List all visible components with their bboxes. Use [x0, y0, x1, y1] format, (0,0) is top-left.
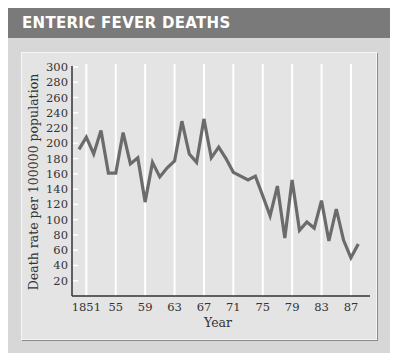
y-tick-label: 140: [46, 182, 68, 196]
x-tick-label: 67: [197, 300, 212, 314]
x-tick-label: 55: [108, 300, 123, 314]
y-tick-label: 160: [46, 167, 68, 181]
y-tick-label: 180: [46, 152, 68, 166]
line-chart: 2040608010012014016018020022024026028030…: [0, 0, 395, 359]
x-tick-label: 63: [167, 300, 182, 314]
x-tick-label: 75: [255, 300, 270, 314]
y-tick-label: 120: [46, 197, 68, 211]
y-tick-label: 280: [46, 75, 68, 89]
x-axis-title: Year: [203, 315, 232, 330]
x-tick-label: 1851: [72, 300, 101, 314]
y-tick-label: 220: [46, 121, 68, 135]
y-tick-label: 20: [53, 274, 68, 288]
x-axis: 1851555963677175798387: [72, 296, 370, 314]
x-tick-label: 87: [344, 300, 359, 314]
x-tick-label: 59: [138, 300, 153, 314]
y-tick-label: 100: [46, 213, 68, 227]
y-tick-label: 40: [53, 258, 68, 272]
y-tick-label: 60: [53, 243, 68, 257]
vertical-gridlines: [86, 64, 351, 296]
y-tick-label: 300: [46, 60, 68, 74]
y-axis-title: Death rate per 100000 population: [26, 74, 41, 290]
y-axis: 2040608010012014016018020022024026028030…: [46, 60, 78, 296]
y-tick-label: 260: [46, 91, 68, 105]
data-line: [79, 119, 358, 258]
y-tick-label: 200: [46, 136, 68, 150]
x-tick-label: 79: [285, 300, 300, 314]
y-tick-label: 240: [46, 106, 68, 120]
y-tick-label: 80: [53, 228, 68, 242]
x-tick-label: 83: [314, 300, 329, 314]
x-tick-label: 71: [226, 300, 241, 314]
